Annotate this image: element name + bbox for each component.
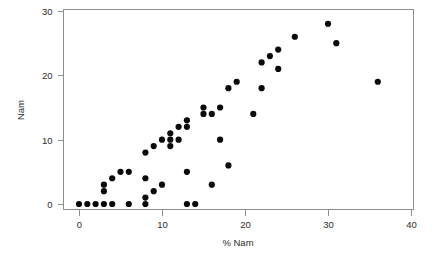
data-point	[217, 137, 223, 143]
x-tick-label: 0	[77, 219, 82, 230]
data-point	[184, 117, 190, 123]
data-point	[225, 85, 231, 91]
plot-frame	[64, 10, 414, 210]
data-point	[101, 188, 107, 194]
data-point	[101, 201, 107, 207]
y-axis-tick-labels: 0102030	[42, 6, 53, 210]
data-point	[159, 137, 165, 143]
data-point	[142, 149, 148, 155]
data-point	[93, 201, 99, 207]
x-axis-ticks	[80, 210, 412, 216]
x-axis-title: % Nam	[222, 237, 253, 248]
data-point	[184, 124, 190, 130]
data-point	[292, 34, 298, 40]
x-tick-label: 10	[157, 219, 168, 230]
data-point	[126, 201, 132, 207]
data-point	[325, 21, 331, 27]
data-point	[76, 201, 82, 207]
data-point	[234, 79, 240, 85]
data-point	[117, 169, 123, 175]
data-point	[167, 137, 173, 143]
data-point	[167, 143, 173, 149]
data-point	[184, 169, 190, 175]
data-point	[151, 188, 157, 194]
data-point	[333, 40, 339, 46]
data-point	[176, 124, 182, 130]
x-tick-label: 20	[240, 219, 251, 230]
data-point	[375, 79, 381, 85]
data-point	[142, 175, 148, 181]
x-tick-label: 40	[406, 219, 417, 230]
data-point	[259, 59, 265, 65]
x-axis-tick-labels: 010203040	[77, 219, 417, 230]
data-point	[209, 111, 215, 117]
data-point	[101, 182, 107, 188]
data-point	[109, 175, 115, 181]
y-tick-label: 0	[47, 199, 52, 210]
y-tick-label: 10	[42, 135, 53, 146]
data-point	[275, 66, 281, 72]
data-point	[267, 53, 273, 59]
data-point	[176, 137, 182, 143]
data-point	[84, 201, 90, 207]
data-point	[142, 201, 148, 207]
data-point	[184, 201, 190, 207]
data-point	[151, 143, 157, 149]
y-axis-title: Nam	[15, 100, 26, 120]
x-tick-label: 30	[323, 219, 334, 230]
data-point	[142, 194, 148, 200]
data-point	[209, 182, 215, 188]
data-point-group	[76, 21, 381, 207]
data-point	[109, 201, 115, 207]
data-point	[200, 104, 206, 110]
y-tick-label: 20	[42, 70, 53, 81]
data-point	[217, 104, 223, 110]
data-point	[259, 85, 265, 91]
data-point	[126, 169, 132, 175]
data-point	[167, 130, 173, 136]
plot-canvas: 0102030 010203040 % Nam Nam	[0, 0, 439, 255]
data-point	[250, 111, 256, 117]
y-tick-label: 30	[42, 6, 53, 17]
data-point	[275, 47, 281, 53]
y-axis-ticks	[58, 12, 64, 205]
data-point	[200, 111, 206, 117]
scatter-plot-figure: 0102030 010203040 % Nam Nam	[0, 0, 439, 255]
data-point	[192, 201, 198, 207]
data-point	[225, 162, 231, 168]
data-point	[159, 182, 165, 188]
